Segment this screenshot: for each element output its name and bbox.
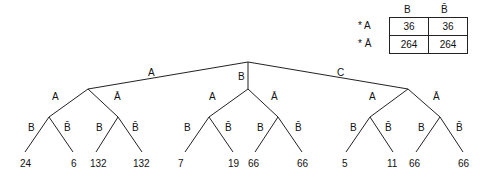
tree-diagram: A B C A Ā A Ā A Ā B B̄ B B̄ B B̄ B B̄ B … [0, 0, 489, 179]
leaf: 66 [458, 158, 470, 169]
leaf: 19 [228, 158, 240, 169]
svg-text:B̄: B̄ [456, 121, 463, 133]
svg-text:Ā: Ā [433, 91, 440, 102]
edge-label-a: A [148, 67, 155, 78]
svg-text:B̄: B̄ [64, 121, 71, 133]
svg-text:Ā: Ā [114, 91, 121, 102]
svg-text:B: B [96, 122, 103, 133]
svg-text:A: A [209, 91, 216, 102]
leaf: 5 [342, 158, 348, 169]
leaf: 132 [90, 158, 107, 169]
svg-text:B̄: B̄ [295, 121, 302, 133]
svg-text:B: B [28, 122, 35, 133]
leaf: 66 [409, 158, 421, 169]
leaf: 6 [71, 158, 77, 169]
svg-text:A: A [52, 91, 59, 102]
leaf: 7 [178, 158, 184, 169]
svg-text:B̄: B̄ [225, 121, 232, 133]
leaf: 66 [297, 158, 309, 169]
svg-text:B: B [257, 122, 264, 133]
svg-text:B: B [418, 122, 425, 133]
leaf: 66 [248, 158, 260, 169]
svg-text:B̄: B̄ [385, 121, 392, 133]
svg-text:B: B [184, 122, 191, 133]
leaf: 132 [133, 158, 150, 169]
svg-text:A: A [369, 91, 376, 102]
svg-text:B: B [350, 122, 357, 133]
leaf: 11 [387, 158, 398, 169]
edge-label-b: B [238, 71, 245, 82]
leaf: 24 [20, 158, 32, 169]
edge-label-c: C [337, 67, 344, 78]
svg-text:B̄: B̄ [132, 121, 139, 133]
svg-text:Ā: Ā [271, 91, 278, 102]
